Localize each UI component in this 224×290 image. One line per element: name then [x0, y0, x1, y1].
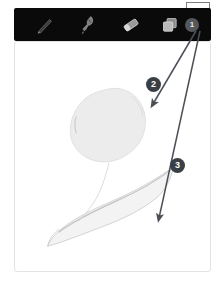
layer-count-badge[interactable]: 1: [180, 8, 204, 41]
app-root: 1 2 3: [0, 0, 224, 290]
leaf-tail-shape: [48, 167, 174, 246]
canvas-artwork: [15, 42, 210, 271]
eraser-icon: [119, 13, 143, 37]
pen-tool-button[interactable]: [28, 8, 62, 41]
brush-tool-button[interactable]: [71, 8, 105, 41]
layer-count-label: 1: [185, 18, 199, 32]
brush-icon: [76, 13, 100, 37]
pen-icon: [33, 13, 57, 37]
toolbar: 1: [14, 8, 211, 41]
annotation-marker-3: 3: [170, 158, 185, 173]
annotation-marker-2: 2: [146, 77, 161, 92]
layers-icon: [161, 16, 179, 34]
eraser-tool-button[interactable]: [114, 8, 148, 41]
leaf-body-shape: [70, 88, 145, 162]
drawing-canvas[interactable]: [14, 41, 211, 272]
